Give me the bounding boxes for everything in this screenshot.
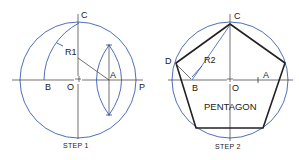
step2-figure: C R2 D A B O PENTAGON STEP 2 — [165, 11, 293, 150]
step1-label-a: A — [110, 70, 116, 80]
step1-label-c: C — [81, 10, 88, 20]
step2-caption: STEP 2 — [215, 143, 241, 150]
step2-label-d: D — [165, 56, 172, 66]
step1-figure: C R1 A B O P STEP 1 — [12, 10, 145, 149]
pentagon-title: PENTAGON — [204, 101, 257, 112]
step2-label-b: B — [192, 83, 198, 93]
step1-label-o: O — [67, 82, 74, 92]
step1-label-r1: R1 — [65, 47, 77, 57]
step2-label-c: C — [234, 11, 241, 21]
step1-radius-line — [78, 58, 109, 80]
step2-c-to-b-line — [192, 25, 230, 80]
step1-caption: STEP 1 — [63, 142, 89, 149]
step2-r2-leader — [192, 66, 202, 77]
step1-label-p: P — [139, 82, 145, 92]
step2-label-o: O — [232, 83, 239, 93]
step1-r1-leader — [57, 43, 63, 46]
step1-label-b: B — [45, 82, 51, 92]
step2-label-a: A — [263, 70, 269, 80]
pentagon-construction-diagram: C R1 A B O P STEP 1 C R2 D A B O PENTAGO… — [0, 0, 299, 160]
step2-label-r2: R2 — [204, 55, 216, 65]
